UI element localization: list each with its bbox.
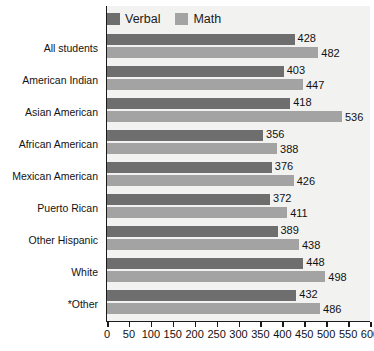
bar-value-label: 389 bbox=[281, 225, 299, 236]
bar-verbal bbox=[107, 34, 295, 45]
bar-value-label: 372 bbox=[273, 193, 291, 204]
axis-tick bbox=[370, 322, 372, 327]
legend-item-math: Math bbox=[175, 13, 221, 26]
bar-math bbox=[107, 111, 342, 122]
bar-math bbox=[107, 47, 318, 58]
axis-tick-label: 250 bbox=[207, 329, 225, 340]
bar-verbal bbox=[107, 162, 272, 173]
bar-math bbox=[107, 271, 325, 282]
bar-verbal bbox=[107, 130, 263, 141]
axis-tick-label: 200 bbox=[185, 329, 203, 340]
bar-value-label: 428 bbox=[298, 33, 316, 44]
bar-value-label: 432 bbox=[299, 289, 317, 300]
bars-layer: 4284824034474185363563883764263724113894… bbox=[107, 34, 370, 322]
bar-verbal bbox=[107, 194, 270, 205]
bar-math bbox=[107, 303, 320, 314]
axis-tick-label: 0 bbox=[104, 329, 110, 340]
axis-tick-label: 100 bbox=[142, 329, 160, 340]
bar-math bbox=[107, 143, 277, 154]
bar-chart: VerbalMath All studentsAmerican IndianAs… bbox=[0, 0, 374, 351]
bar-math bbox=[107, 175, 294, 186]
bar-verbal bbox=[107, 66, 284, 77]
legend-swatch-math-icon bbox=[175, 13, 188, 25]
bar-value-label: 376 bbox=[275, 161, 293, 172]
axis-tick-label: 400 bbox=[273, 329, 291, 340]
bar-value-label: 448 bbox=[306, 257, 324, 268]
category-label: All students bbox=[0, 43, 98, 54]
axis-tick bbox=[348, 322, 350, 327]
axis-tick bbox=[129, 322, 131, 327]
axis-tick-label: 600 bbox=[361, 329, 374, 340]
category-label: Puerto Rican bbox=[0, 203, 98, 214]
legend-label: Verbal bbox=[125, 13, 160, 26]
axis-tick-label: 550 bbox=[339, 329, 357, 340]
category-label: Asian American bbox=[0, 107, 98, 118]
axis-tick bbox=[173, 322, 175, 327]
axis-tick bbox=[304, 322, 306, 327]
bar-verbal bbox=[107, 258, 303, 269]
bar-math bbox=[107, 207, 287, 218]
axis-tick bbox=[260, 322, 262, 327]
axis-tick-label: 300 bbox=[229, 329, 247, 340]
axis-tick bbox=[107, 322, 109, 327]
bar-value-label: 536 bbox=[345, 112, 363, 123]
axis-tick bbox=[217, 322, 219, 327]
axis-tick bbox=[282, 322, 284, 327]
bar-verbal bbox=[107, 226, 278, 237]
axis-tick-label: 450 bbox=[295, 329, 313, 340]
axis-tick-label: 50 bbox=[123, 329, 135, 340]
bar-value-label: 486 bbox=[323, 304, 341, 315]
bar-math bbox=[107, 239, 299, 250]
bar-value-label: 447 bbox=[306, 80, 324, 91]
bar-value-label: 438 bbox=[302, 240, 320, 251]
bar-value-label: 418 bbox=[293, 97, 311, 108]
bar-value-label: 403 bbox=[287, 65, 305, 76]
legend-label: Math bbox=[193, 13, 221, 26]
bar-value-label: 388 bbox=[280, 144, 298, 155]
axis-tick-label: 350 bbox=[251, 329, 269, 340]
category-label: *Other bbox=[0, 299, 98, 310]
category-label: White bbox=[0, 267, 98, 278]
axis-tick bbox=[195, 322, 197, 327]
axis-tick-label: 150 bbox=[164, 329, 182, 340]
bar-value-label: 411 bbox=[290, 208, 308, 219]
category-label: Mexican American bbox=[0, 171, 98, 182]
axis-tick bbox=[239, 322, 241, 327]
axis-tick bbox=[326, 322, 328, 327]
category-axis-labels: All studentsAmerican IndianAsian America… bbox=[0, 34, 102, 322]
bar-math bbox=[107, 79, 303, 90]
legend-swatch-verbal-icon bbox=[107, 13, 120, 25]
bar-value-label: 482 bbox=[321, 48, 339, 59]
category-label: Other Hispanic bbox=[0, 235, 98, 246]
legend-item-verbal: Verbal bbox=[107, 13, 160, 26]
axis-tick bbox=[151, 322, 153, 327]
axis-tick-label: 500 bbox=[317, 329, 335, 340]
chart-legend: VerbalMath bbox=[107, 9, 221, 29]
category-label: American Indian bbox=[0, 75, 98, 86]
bar-value-label: 356 bbox=[266, 129, 284, 140]
bar-value-label: 498 bbox=[328, 272, 346, 283]
bar-verbal bbox=[107, 290, 296, 301]
category-label: African American bbox=[0, 139, 98, 150]
bar-value-label: 426 bbox=[297, 176, 315, 187]
value-axis: 050100150200250300350400450500550600 bbox=[107, 322, 370, 351]
bar-verbal bbox=[107, 98, 290, 109]
